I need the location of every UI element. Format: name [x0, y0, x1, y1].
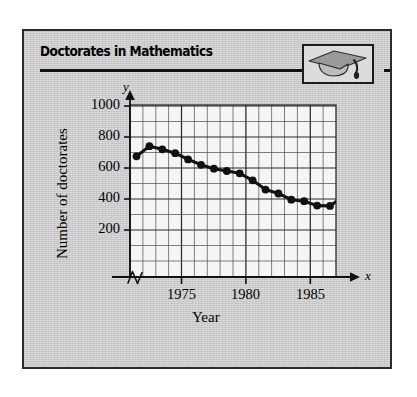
- data-point: [326, 202, 334, 210]
- data-point: [184, 156, 192, 164]
- plot-area: 1000 800 600 400 200 1975 1980 1985 y x …: [40, 83, 378, 361]
- data-point: [197, 161, 205, 169]
- y-tick-label-1000: 1000: [56, 96, 120, 113]
- graduation-cap-badge: [302, 44, 374, 84]
- x-tick-label-1985: 1985: [282, 286, 339, 303]
- y-axis-symbol: y: [123, 79, 129, 95]
- page-title: Doctorates in Mathematics: [40, 43, 212, 59]
- data-point: [300, 197, 308, 205]
- x-axis-title: Year: [192, 309, 220, 326]
- data-point: [210, 165, 218, 173]
- data-point: [223, 167, 231, 175]
- x-tick-marks: [182, 277, 311, 284]
- title-row: Doctorates in Mathematics: [40, 43, 376, 83]
- data-point: [262, 186, 270, 194]
- data-point: [339, 193, 347, 201]
- x-tick-label-1975: 1975: [153, 286, 210, 303]
- title-divider-rule: [40, 69, 302, 72]
- x-axis-symbol: x: [365, 268, 371, 284]
- chart-panel: Doctorates in Mathematics: [22, 29, 392, 369]
- data-point: [158, 145, 166, 153]
- data-point: [275, 190, 283, 198]
- data-point: [171, 149, 179, 157]
- data-point: [236, 169, 244, 177]
- data-point: [249, 176, 257, 184]
- y-axis-title: Number of doctorates: [54, 128, 71, 259]
- data-point: [313, 202, 321, 210]
- screenshot-root: Doctorates in Mathematics: [0, 0, 417, 397]
- data-point: [146, 142, 154, 150]
- title-divider-rule-right: [384, 69, 392, 72]
- data-point: [133, 152, 141, 160]
- data-point: [287, 196, 295, 204]
- x-tick-label-1980: 1980: [217, 286, 274, 303]
- graduation-cap-icon: [304, 46, 372, 82]
